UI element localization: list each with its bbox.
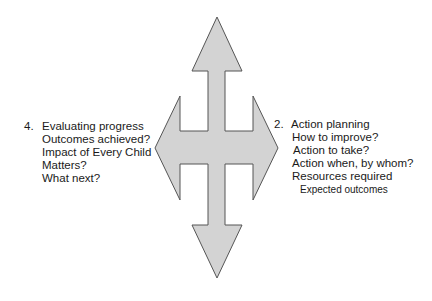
left-line: Outcomes achieved? [24,133,151,146]
step-number-2: 2. [274,118,284,131]
left-line: Matters? [24,159,151,172]
right-line: How to improve? [274,131,413,144]
action-planning-panel: 2. Action planning How to improve? Actio… [274,118,413,197]
evaluating-progress-panel: 4. Evaluating progress Outcomes achieved… [24,120,151,185]
right-line: Action to take? [274,144,413,157]
right-title: Action planning [291,118,370,130]
step-number-4: 4. [24,120,34,133]
left-title-row: 4. Evaluating progress [24,120,151,133]
four-way-arrow-shape [155,17,278,278]
right-line: Action when, by whom? [274,157,413,170]
left-title: Evaluating progress [42,120,144,132]
left-line: Impact of Every Child [24,146,151,159]
right-line: Expected outcomes [274,183,413,197]
right-title-row: 2. Action planning [274,118,413,131]
right-line: Resources required [274,170,413,183]
left-line: What next? [24,172,151,185]
